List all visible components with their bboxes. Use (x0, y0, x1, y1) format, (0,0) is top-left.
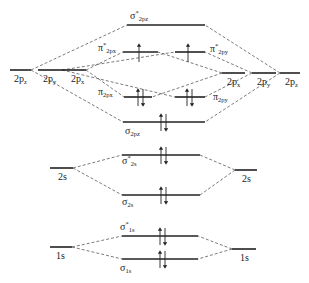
label-pi-star-2py: π*2py (210, 42, 229, 55)
labels: 2pz 2py 2px 2s 1s 2px 2py 2pz 2s 1s σ*2p… (14, 9, 298, 274)
label-left-2pz: 2pz (14, 73, 27, 85)
label-left-1s: 1s (56, 250, 65, 261)
label-pi-star-2px: π*2px (98, 41, 117, 54)
label-sigma-2s: σ2s (122, 196, 134, 208)
mo-diagram: 2pz 2py 2px 2s 1s 2px 2py 2pz 2s 1s σ*2p… (0, 0, 309, 283)
label-right-2s: 2s (242, 173, 251, 184)
correlation-lines (31, 25, 280, 259)
label-right-2px: 2px (227, 76, 241, 88)
label-sigma-star-2pz: σ*2pz (130, 9, 148, 22)
label-right-2py: 2py (257, 76, 271, 88)
energy-levels (10, 25, 300, 259)
label-right-2pz: 2pz (285, 76, 298, 88)
label-right-1s: 1s (240, 252, 249, 263)
label-sigma-1s: σ1s (120, 262, 132, 274)
label-sigma-star-2s: σ*2s (122, 154, 137, 167)
label-sigma-star-1s: σ*1s (120, 220, 135, 233)
label-left-2py: 2py (43, 73, 57, 85)
label-pi-2py: π2py (213, 91, 229, 103)
label-sigma-2pz: σ2pz (125, 125, 140, 137)
electrons (138, 45, 192, 268)
label-left-2s: 2s (58, 171, 67, 182)
